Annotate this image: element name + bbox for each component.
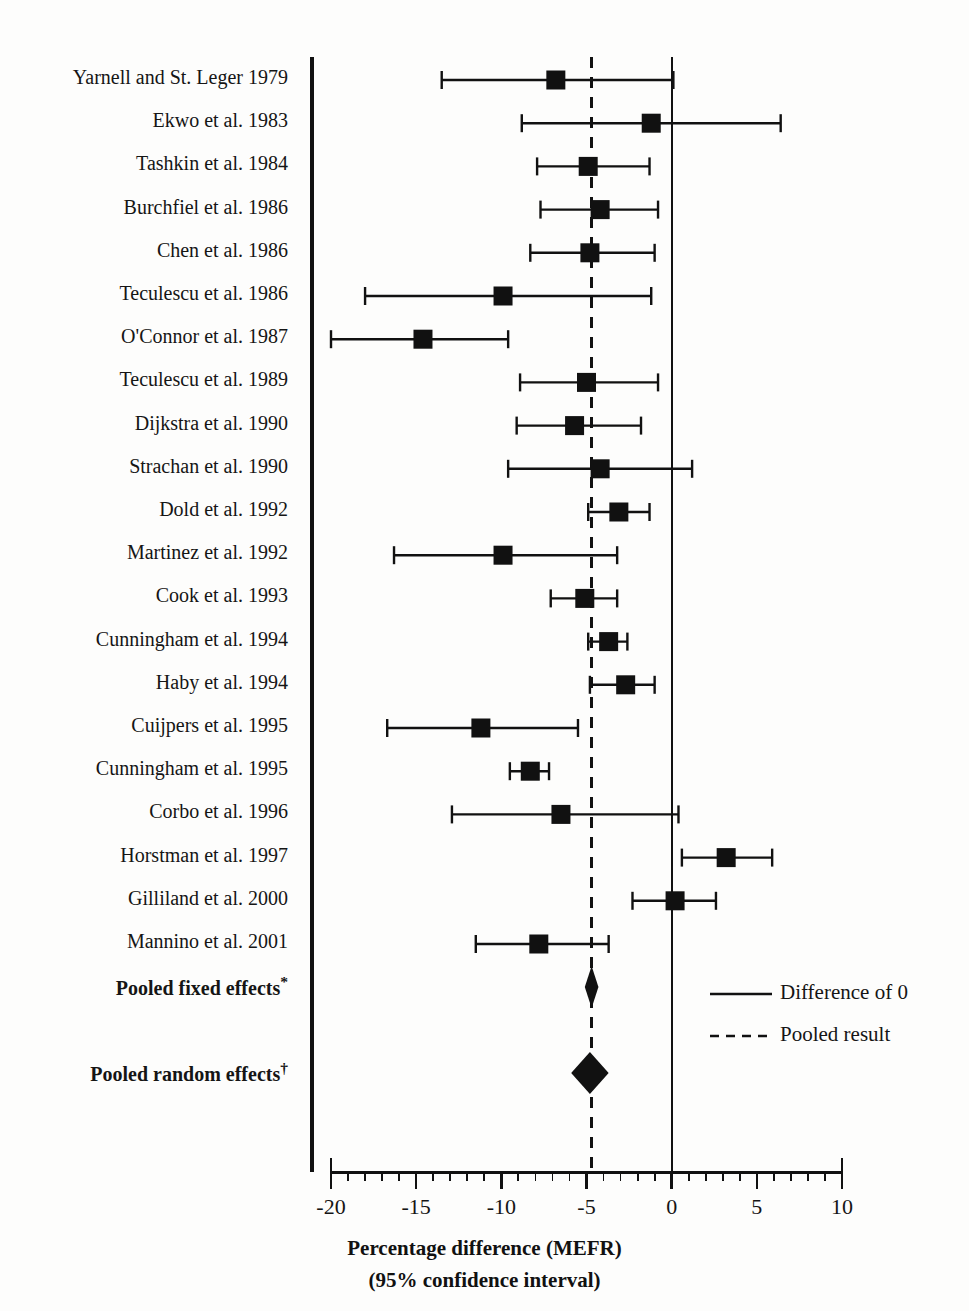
forest-row [551,589,617,608]
pooled-label-text: Pooled random effects [90,1063,280,1085]
point-estimate-marker [521,762,540,781]
study-label: Corbo et al. 1996 [149,801,288,821]
point-estimate-marker [577,373,596,392]
study-label: Burchfiel et al. 1986 [124,197,288,217]
point-estimate-marker [494,546,513,565]
point-estimate-marker [616,675,635,694]
point-estimate-marker [565,416,584,435]
forest-row [387,719,578,738]
forest-row [510,762,549,781]
forest-row [365,287,651,306]
point-estimate-marker [546,71,565,90]
pooled-label-footnote: † [280,1059,288,1076]
x-tick-label: 10 [802,1194,882,1220]
forest-row [522,114,781,133]
x-tick-label: 0 [632,1194,712,1220]
forest-row [476,935,609,954]
study-label: Chen et al. 1986 [157,240,288,260]
forest-row [537,157,649,176]
study-label: Ekwo et al. 1983 [152,110,288,130]
point-estimate-marker [494,287,513,306]
point-estimate-marker [413,330,432,349]
forest-row [520,373,658,392]
point-estimate-marker [717,848,736,867]
study-label: Teculescu et al. 1989 [119,369,288,389]
forest-row [452,805,679,824]
x-tick-label: -5 [547,1194,627,1220]
forest-row [588,632,627,651]
point-estimate-marker [666,891,685,910]
forest-row [530,243,654,262]
study-label: Haby et al. 1994 [156,672,288,692]
study-label: Dold et al. 1992 [159,499,288,519]
forest-row [588,503,649,522]
study-label: Cuijpers et al. 1995 [131,715,288,735]
point-estimate-marker [579,157,598,176]
point-estimate-marker [609,503,628,522]
point-estimate-marker [529,935,548,954]
forest-row [541,200,659,219]
study-label: Strachan et al. 1990 [129,456,288,476]
pooled-label: Pooled fixed effects* [116,974,288,998]
study-label: O'Connor et al. 1987 [121,326,288,346]
study-label: Martinez et al. 1992 [127,542,288,562]
forest-row [632,891,715,910]
point-estimate-marker [471,719,490,738]
legend-label: Difference of 0 [780,980,908,1005]
point-estimate-marker [591,459,610,478]
point-estimate-marker [591,200,610,219]
legend-label: Pooled result [780,1022,890,1047]
study-label: Cunningham et al. 1995 [96,758,288,778]
study-label: Gilliland et al. 2000 [128,888,288,908]
x-axis-title-line1: Percentage difference (MEFR) [0,1236,969,1261]
x-tick-label: -15 [376,1194,456,1220]
study-label: Cunningham et al. 1994 [96,629,288,649]
point-estimate-marker [575,589,594,608]
x-axis-title-line2: (95% confidence interval) [0,1268,969,1293]
pooled-label-text: Pooled fixed effects [116,977,280,999]
x-tick-label: -10 [461,1194,541,1220]
forest-row [442,71,674,90]
study-label-column: Yarnell and St. Leger 1979Ekwo et al. 19… [0,0,288,1311]
study-label: Tashkin et al. 1984 [136,153,288,173]
pooled-label-footnote: * [280,973,288,990]
forest-row [590,675,655,694]
pooled-diamond-marker [585,966,599,1008]
study-label: Dijkstra et al. 1990 [135,413,288,433]
forest-row [394,546,617,565]
study-label: Horstman et al. 1997 [120,845,288,865]
pooled-diamond-marker [571,1052,608,1094]
forest-row [517,416,641,435]
point-estimate-marker [580,243,599,262]
forest-row [508,459,692,478]
study-label: Yarnell and St. Leger 1979 [73,67,288,87]
point-estimate-marker [642,114,661,133]
x-tick-label: -20 [291,1194,371,1220]
point-estimate-marker [551,805,570,824]
forest-row [331,330,508,349]
x-tick-label: 5 [717,1194,797,1220]
pooled-label: Pooled random effects† [90,1060,288,1084]
study-label: Teculescu et al. 1986 [119,283,288,303]
point-estimate-marker [599,632,618,651]
study-label: Cook et al. 1993 [156,585,288,605]
study-label: Mannino et al. 2001 [127,931,288,951]
forest-row [682,848,772,867]
